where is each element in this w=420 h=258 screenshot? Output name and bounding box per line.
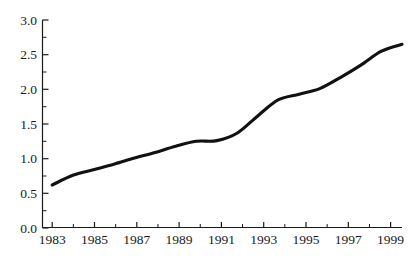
- x-tick-label-4: 1991: [208, 232, 235, 247]
- x-tick-label-1: 1985: [81, 232, 108, 247]
- x-tick-label-0: 1983: [39, 232, 66, 247]
- x-tick-label-3: 1989: [166, 232, 193, 247]
- x-tick-label-2: 1987: [123, 232, 150, 247]
- y-tick-label-5: 2.5: [20, 47, 37, 62]
- chart-background: [0, 0, 420, 258]
- y-tick-label-6: 3.0: [20, 13, 37, 28]
- y-tick-label-4: 2.0: [20, 82, 37, 97]
- x-tick-label-7: 1997: [335, 232, 362, 247]
- chart-figure: 0.0 0.5 1.0 1.5 2.0 2.5 3.0: [0, 0, 420, 258]
- y-tick-label-2: 1.0: [20, 151, 37, 166]
- line-chart: 0.0 0.5 1.0 1.5 2.0 2.5 3.0: [0, 0, 420, 258]
- x-tick-label-6: 1995: [293, 232, 320, 247]
- y-tick-label-3: 1.5: [20, 117, 37, 132]
- x-tick-label-8: 1999: [377, 232, 404, 247]
- x-tick-label-5: 1993: [250, 232, 277, 247]
- x-axis-tick-labels: 1983 1985 1987 1989 1991 1993 1995 1997 …: [39, 232, 405, 247]
- y-tick-label-0: 0.0: [20, 221, 37, 236]
- y-tick-label-1: 0.5: [20, 186, 37, 201]
